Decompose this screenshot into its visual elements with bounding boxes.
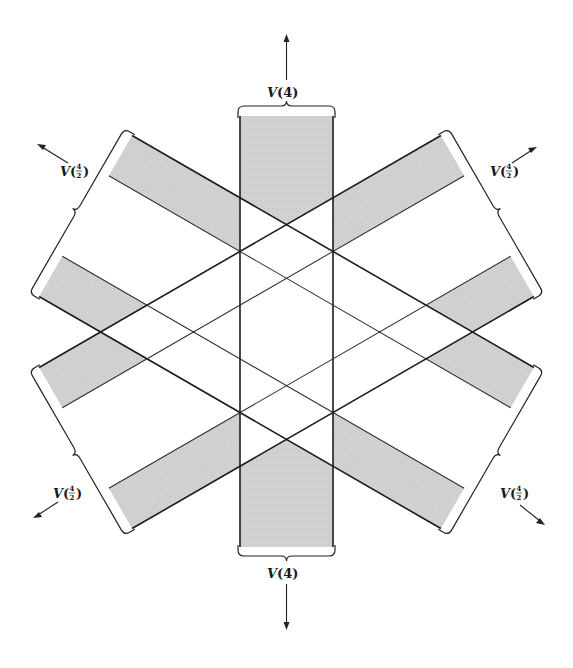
label-bottom: V(4) bbox=[267, 566, 298, 581]
label-upper-right: V( bbox=[490, 164, 506, 179]
fraction-denominator: 2 bbox=[507, 171, 512, 180]
label-top: V(4) bbox=[267, 85, 298, 100]
fraction-denominator: 2 bbox=[77, 171, 82, 180]
fraction-denominator: 2 bbox=[70, 493, 75, 502]
svg-text:): ) bbox=[76, 486, 82, 501]
vertical-band-shading bbox=[240, 116, 333, 547]
fraction-numerator: 4 bbox=[517, 484, 522, 493]
fraction-numerator: 4 bbox=[507, 162, 512, 171]
fraction-numerator: 4 bbox=[70, 484, 75, 493]
arrow-up-icon bbox=[284, 34, 290, 42]
brace-top: V(4) bbox=[238, 34, 335, 118]
arrow-upper-left: V( 4 2 ) bbox=[37, 144, 89, 180]
arrow-down-icon bbox=[284, 622, 290, 630]
fraction-numerator: 4 bbox=[77, 162, 82, 171]
arrow-lower-left: V( 4 2 ) bbox=[33, 484, 82, 518]
svg-text:): ) bbox=[523, 486, 529, 501]
arrow-upper-right: V( 4 2 ) bbox=[490, 147, 537, 180]
band-diagram: V(4) V(4) V( 4 2 ) V( 4 2 ) V( bbox=[0, 0, 573, 668]
svg-text:): ) bbox=[513, 164, 519, 179]
label-lower-left: V( bbox=[53, 486, 69, 501]
fraction-denominator: 2 bbox=[517, 493, 522, 502]
label-upper-left: V( bbox=[60, 164, 76, 179]
svg-text:): ) bbox=[83, 164, 89, 179]
label-lower-right: V( bbox=[500, 486, 516, 501]
brace-bottom: V(4) bbox=[238, 545, 335, 630]
arrow-lower-right: V( 4 2 ) bbox=[500, 484, 545, 525]
